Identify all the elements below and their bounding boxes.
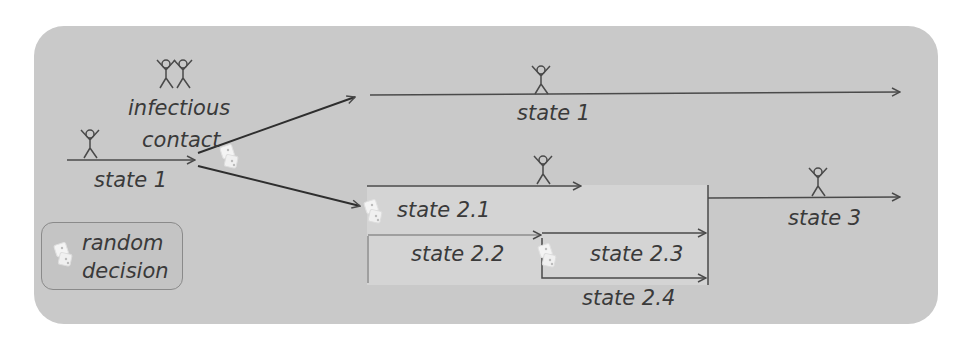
person-icon xyxy=(81,130,99,158)
state-2-1-label: state 2.1 xyxy=(397,200,490,221)
start-state-label: state 1 xyxy=(94,170,167,191)
two-persons-icon xyxy=(157,60,192,88)
branch-lower-arrow xyxy=(198,166,360,206)
legend-label-line2: decision xyxy=(82,261,169,282)
state-2-3-label: state 2.3 xyxy=(590,244,683,265)
infectious-contact-label-line2: contact xyxy=(142,130,221,151)
state-3-label: state 3 xyxy=(788,208,861,229)
dice-icon xyxy=(220,144,239,168)
state-3-arrow xyxy=(708,197,900,198)
person-icon xyxy=(809,168,827,196)
upper-state-1-arrow xyxy=(370,92,900,95)
infectious-contact-label-line1: infectious xyxy=(128,98,230,119)
person-icon xyxy=(534,156,552,184)
upper-state-1-label: state 1 xyxy=(517,103,590,124)
legend-label-line1: random xyxy=(82,233,163,254)
state-2-4-label: state 2.4 xyxy=(582,288,675,309)
person-icon xyxy=(532,66,550,94)
dice-icon xyxy=(50,235,80,275)
state-2-2-label: state 2.2 xyxy=(411,244,504,265)
